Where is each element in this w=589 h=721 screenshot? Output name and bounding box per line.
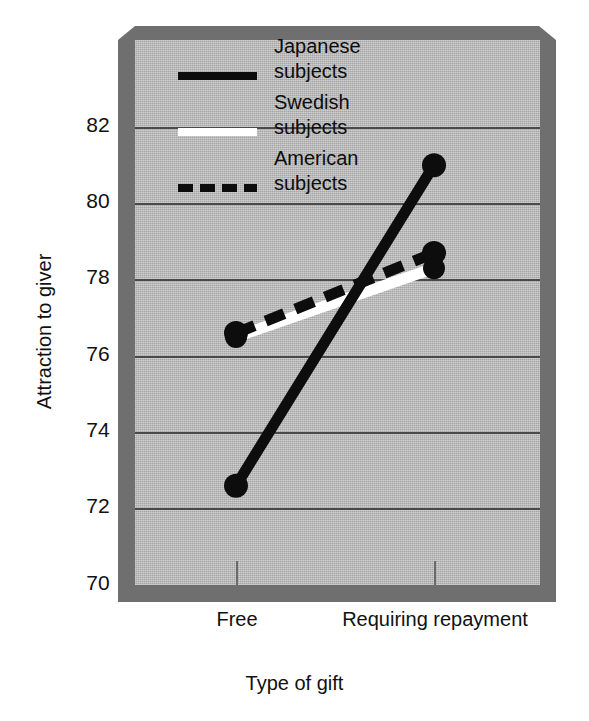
ytick-72: 72	[58, 508, 110, 509]
y-axis-title: Attraction to giver	[33, 202, 56, 462]
ytick-74: 74	[58, 432, 110, 433]
ytick-80: 80	[58, 203, 110, 204]
ytick-82: 82	[58, 127, 110, 128]
legend-label-swedish: Swedish subjects	[274, 90, 350, 140]
ytick-70: 70	[58, 585, 110, 586]
chart-legend: Japanese subjects Swedish subjects Ameri…	[178, 52, 418, 220]
ytick-76: 76	[58, 356, 110, 357]
legend-swatch-swedish-icon	[178, 128, 257, 136]
legend-label-japanese: Japanese subjects	[274, 34, 361, 84]
chart-figure: 82 80 78 76 74 72 70 Free Requiring repa…	[0, 0, 589, 721]
legend-swatch-japanese-icon	[178, 72, 257, 80]
legend-entry-american: American subjects	[178, 164, 418, 220]
legend-swatch-american-icon	[178, 184, 257, 192]
xtick-label-free: Free	[132, 606, 342, 632]
xtick-label-requiring-repayment: Requiring repayment	[330, 606, 540, 632]
legend-label-american: American subjects	[274, 146, 358, 196]
x-axis-title: Type of gift	[0, 672, 589, 695]
ytick-78: 78	[58, 279, 110, 280]
